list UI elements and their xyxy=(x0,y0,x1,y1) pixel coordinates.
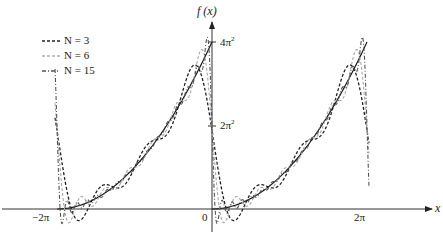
tick-sup: 2 xyxy=(231,35,235,43)
legend-label-n15: N = 15 xyxy=(64,64,95,76)
tick-text: 2π xyxy=(220,119,231,131)
tick-sup: 2 xyxy=(231,118,235,126)
legend-item-n15: N = 15 xyxy=(30,64,120,78)
x-axis-label: x xyxy=(435,201,440,216)
x-tick-label-origin: 0 xyxy=(202,211,208,223)
legend-item-n3: N = 3 xyxy=(30,34,120,48)
x-tick-label-neg2pi: −2π xyxy=(32,211,49,223)
legend-swatch-n3 xyxy=(42,40,60,42)
y-tick-label-4pi2: 4π2 xyxy=(220,35,235,48)
legend-item-n6: N = 6 xyxy=(30,49,120,63)
tick-text: 4π xyxy=(220,36,231,48)
legend-swatch-n15 xyxy=(42,70,60,72)
y-axis-label: f (x) xyxy=(197,4,217,19)
y-tick-label-2pi2: 2π2 xyxy=(220,118,235,131)
x-tick-label-2pi: 2π xyxy=(354,211,365,223)
legend-swatch-n6 xyxy=(42,55,60,57)
legend-label-n6: N = 6 xyxy=(64,49,89,61)
legend-label-n3: N = 3 xyxy=(64,34,89,46)
